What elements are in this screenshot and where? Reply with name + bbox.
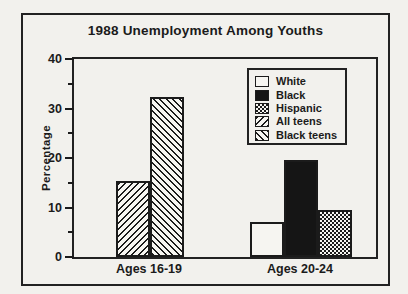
legend-label-black-teens: Black teens: [276, 130, 337, 141]
legend-label-black: Black: [276, 90, 305, 101]
y-tick-10: [65, 207, 74, 209]
legend-item-black: Black: [255, 88, 345, 101]
y-tick-30: [65, 108, 74, 110]
y-tick-40: [65, 58, 74, 60]
figure: 1988 Unemployment Among Youths Percentag…: [0, 0, 408, 294]
y-tick-label-40: 40: [34, 52, 62, 66]
y-minor-tick-25: [68, 132, 74, 134]
legend-swatch-black: [255, 90, 269, 101]
bar-all-teens-ages-16-19: [116, 181, 150, 257]
y-minor-tick-15: [68, 182, 74, 184]
legend-item-hispanic: Hispanic: [255, 102, 345, 115]
legend-swatch-hispanic: [255, 103, 269, 114]
chart-title: 1988 Unemployment Among Youths: [21, 23, 390, 38]
legend-item-black-teens: Black teens: [255, 129, 345, 142]
y-tick-label-10: 10: [34, 201, 62, 215]
y-tick-20: [65, 157, 74, 159]
y-tick-label-0: 0: [34, 250, 62, 264]
x-axis-label-ages-20-24: Ages 20-24: [230, 262, 370, 276]
bar-black-teens-ages-16-19: [150, 97, 184, 257]
x-axis-label-ages-16-19: Ages 16-19: [79, 262, 219, 276]
bar-white-ages-20-24: [250, 222, 284, 257]
legend-item-all-teens: All teens: [255, 115, 345, 128]
y-tick-0: [65, 256, 74, 258]
legend-label-all-teens: All teens: [276, 116, 322, 127]
y-tick-label-30: 30: [34, 102, 62, 116]
y-minor-tick-35: [68, 83, 74, 85]
legend-item-white: White: [255, 75, 345, 88]
bar-hispanic-ages-20-24: [318, 210, 352, 257]
legend-label-white: White: [276, 76, 306, 87]
y-minor-tick-5: [68, 231, 74, 233]
legend-swatch-white: [255, 76, 269, 87]
legend-label-hispanic: Hispanic: [276, 103, 322, 114]
bar-black-ages-20-24: [284, 160, 318, 257]
legend-swatch-black-teens: [255, 130, 269, 141]
y-tick-label-20: 20: [34, 151, 62, 165]
legend-swatch-all-teens: [255, 116, 269, 127]
legend: WhiteBlackHispanicAll teensBlack teens: [247, 68, 347, 145]
